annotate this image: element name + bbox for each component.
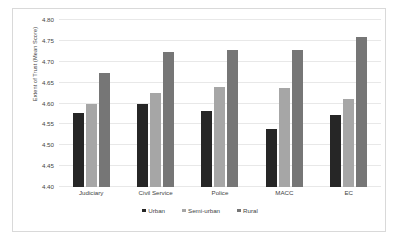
bar-police-semi-urban[interactable] [214,87,225,187]
legend-item-semi-urban[interactable]: Semi-urban [182,207,220,214]
bar-ec-semi-urban[interactable] [343,99,354,188]
plot-area: 4.404.454.504.554.604.654.704.754.80 [59,20,381,187]
bar-group-judiciary [73,20,110,187]
legend-swatch-icon [182,209,186,213]
y-axis-tick-label: 4.55 [42,120,54,127]
bar-police-rural[interactable] [227,50,238,187]
legend-label: Rural [243,207,258,214]
y-axis-tick-label: 4.45 [42,162,54,169]
bar-macc-urban[interactable] [266,129,277,187]
chart-figure: Extent of Trust (Mean Score) 4.404.454.5… [0,0,404,243]
y-axis-tick-label: 4.70 [42,57,54,64]
bar-civil-service-rural[interactable] [163,52,174,187]
y-axis-tick-label: 4.50 [42,141,54,148]
bar-group-ec [330,20,367,187]
y-axis-tick-label: 4.60 [42,99,54,106]
x-axis-label-ec: EC [328,189,369,196]
x-axis-label-civil-service: Civil Service [135,189,176,196]
bar-judiciary-rural[interactable] [99,73,110,187]
x-axis-labels: JudiciaryCivil ServicePoliceMACCEC [59,189,381,196]
bar-judiciary-semi-urban[interactable] [86,104,97,188]
x-axis-label-judiciary: Judiciary [71,189,112,196]
bar-group-police [201,20,238,187]
y-axis-tick-label: 4.75 [42,36,54,43]
bar-group-macc [266,20,303,187]
chart-legend: UrbanSemi-urbanRural [13,207,387,214]
bar-ec-urban[interactable] [330,115,341,187]
x-axis-label-police: Police [199,189,240,196]
y-axis-tick-label: 4.40 [42,183,54,190]
bar-police-urban[interactable] [201,111,212,187]
bar-group-civil-service [137,20,174,187]
legend-swatch-icon [142,209,146,213]
legend-item-urban[interactable]: Urban [142,207,165,214]
legend-label: Semi-urban [188,207,220,214]
x-axis-label-macc: MACC [264,189,305,196]
y-axis-tick-label: 4.80 [42,16,54,23]
chart-frame: Extent of Trust (Mean Score) 4.404.454.5… [12,8,386,232]
bar-ec-rural[interactable] [356,37,367,187]
bars-layer [59,20,381,187]
legend-swatch-icon [237,209,241,213]
bar-judiciary-urban[interactable] [73,113,84,187]
legend-label: Urban [148,207,165,214]
y-axis-tick-label: 4.65 [42,78,54,85]
bar-macc-rural[interactable] [292,50,303,187]
bar-civil-service-urban[interactable] [137,104,148,188]
legend-item-rural[interactable]: Rural [237,207,258,214]
bar-macc-semi-urban[interactable] [279,88,290,187]
bar-civil-service-semi-urban[interactable] [150,93,161,187]
y-axis-title: Extent of Trust (Mean Score) [32,0,38,134]
